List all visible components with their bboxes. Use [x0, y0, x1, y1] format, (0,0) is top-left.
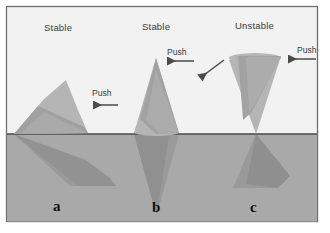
panel-letter-a: a — [53, 198, 61, 215]
panel-letter-b: b — [152, 199, 160, 216]
diagram-canvas — [0, 0, 330, 233]
stability-label-b: Stable — [142, 21, 170, 32]
push-label-c: Push — [297, 45, 316, 55]
push-label-b: Push — [167, 47, 186, 57]
stability-label-c: Unstable — [235, 20, 274, 31]
push-label-a: Push — [92, 88, 111, 98]
panel-letter-c: c — [250, 199, 257, 216]
figure-container: Stable Stable Unstable Push Push Push a … — [0, 0, 330, 233]
stability-label-a: Stable — [44, 22, 72, 33]
